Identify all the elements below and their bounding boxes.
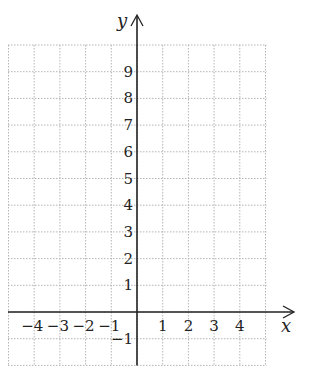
y-tick-label: 7 (123, 116, 133, 134)
y-tick-label: 3 (123, 223, 133, 241)
x-tick-label: −2 (73, 317, 95, 335)
x-tick-label: 3 (209, 317, 219, 335)
y-tick-label: 4 (123, 196, 133, 214)
y-tick-label: 9 (123, 63, 133, 81)
x-tick-label: 1 (158, 317, 168, 335)
y-tick-label: −1 (111, 330, 133, 348)
x-tick-label: −4 (21, 317, 43, 335)
coordinate-plane: xy−4−3−2−11234987654321−1 (0, 0, 319, 374)
x-tick-label: 2 (184, 317, 194, 335)
x-axis-label: x (281, 315, 291, 336)
y-tick-label: 8 (123, 89, 133, 107)
y-tick-label: 6 (123, 143, 133, 161)
x-tick-label: −3 (47, 317, 69, 335)
y-axis-label: y (116, 10, 128, 31)
y-tick-label: 1 (123, 276, 133, 294)
y-tick-label: 2 (123, 250, 133, 268)
x-tick-label: 4 (235, 317, 245, 335)
y-tick-label: 5 (123, 170, 133, 188)
